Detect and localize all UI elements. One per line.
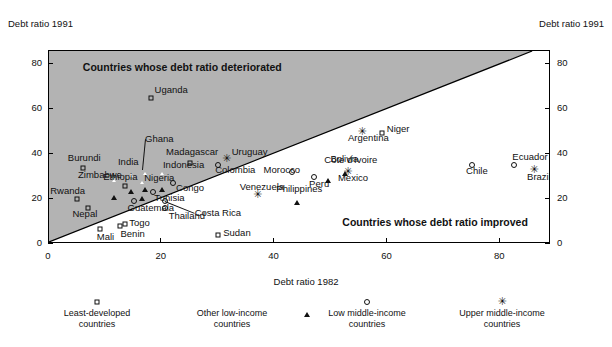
- x-tick-label-20: 20: [141, 250, 181, 261]
- y-tick-label-right-40: 40: [557, 147, 587, 158]
- point-label: Ethiopia: [103, 172, 137, 182]
- point-label: Bolivia: [330, 154, 358, 164]
- x-tickmark: [48, 238, 49, 243]
- x-tickmark: [273, 238, 274, 243]
- legend-item-star: ✳Upper middle-incomecountries: [427, 296, 577, 330]
- y-tickmark: [48, 243, 53, 244]
- marker-circle-icon: [364, 299, 370, 305]
- y-tickmark: [545, 108, 550, 109]
- legend-symbol: [22, 296, 172, 308]
- marker-square-icon: [123, 221, 128, 226]
- point-label: Colombia: [215, 165, 255, 175]
- shaded-region-above-diagonal: [49, 51, 549, 242]
- point-label: Uganda: [155, 85, 188, 95]
- point-label: Madagascar: [166, 147, 218, 157]
- y-tick-label-left-40: 40: [12, 147, 42, 158]
- legend-label-line2: countries: [292, 319, 442, 330]
- y-tick-label-right-60: 60: [557, 102, 587, 113]
- y-tickmark: [48, 108, 53, 109]
- legend-label-line2: countries: [22, 319, 172, 330]
- legend-label-line1: Upper middle-income: [427, 308, 577, 319]
- marker-square-icon: [123, 183, 128, 188]
- point-label: Rwanda: [50, 186, 85, 196]
- y-tick-label-left-0: 0: [12, 237, 42, 248]
- point-label: Brazil: [527, 172, 550, 182]
- marker-star-icon: ✳: [222, 156, 231, 162]
- marker-square-icon: [75, 197, 80, 202]
- marker-square-icon: [95, 300, 100, 305]
- point-label: Mexico: [338, 173, 368, 183]
- marker-circle-icon: [162, 205, 168, 211]
- chart-figure: Debt ratio 1991 Debt ratio 1991 Debt rat…: [0, 0, 612, 347]
- y-tick-label-left-60: 60: [12, 102, 42, 113]
- point-label: India: [118, 157, 139, 167]
- y-tick-label-left-20: 20: [12, 192, 42, 203]
- legend-label-line1: Other low-income: [157, 308, 307, 319]
- x-tick-label-40: 40: [254, 250, 294, 261]
- legend-symbol: ✳: [427, 296, 577, 308]
- marker-star-icon: ✳: [253, 192, 262, 198]
- point-label: Morocco: [264, 165, 300, 175]
- x-tick-label-60: 60: [366, 250, 406, 261]
- y-tickmark: [48, 198, 53, 199]
- marker-square-icon: [148, 96, 153, 101]
- point-label: Benin: [121, 229, 145, 239]
- point-label: Indonesia: [163, 160, 204, 170]
- y-tickmark: [48, 63, 53, 64]
- legend-symbol: [292, 296, 442, 308]
- point-label: Sudan: [223, 228, 250, 238]
- point-label: Nepal: [72, 209, 97, 219]
- marker-square-icon: [216, 233, 221, 238]
- x-tickmark: [160, 238, 161, 243]
- point-label: Uruguay: [232, 147, 268, 157]
- y-tick-label-left-80: 80: [12, 57, 42, 68]
- y-tickmark: [545, 153, 550, 154]
- y-tick-label-right-80: 80: [557, 57, 587, 68]
- marker-square-icon: [379, 130, 384, 135]
- point-label: Ghana: [145, 134, 174, 144]
- x-axis-title: Debt ratio 1982: [0, 276, 612, 287]
- point-label: Togo: [129, 218, 150, 228]
- x-tick-label-80: 80: [479, 250, 519, 261]
- plot-area: UgandaGhanaMadagascarIndonesia✳UruguayCo…: [48, 50, 550, 243]
- region-note-deteriorated: Countries whose debt ratio deteriorated: [83, 61, 282, 73]
- chart-legend: Least-developedcountriesOther low-income…: [0, 296, 612, 344]
- y-axis-title-left: Debt ratio 1991: [8, 18, 73, 29]
- point-label: Mali: [97, 232, 114, 242]
- point-label: Thailand: [169, 211, 205, 221]
- point-label: Niger: [387, 124, 410, 134]
- point-label: Burundi: [68, 153, 101, 163]
- legend-label-line2: countries: [427, 319, 577, 330]
- marker-circle-icon: [511, 162, 517, 168]
- legend-label-line2: countries: [157, 319, 307, 330]
- legend-item-circle: Low middle-incomecountries: [292, 296, 442, 330]
- y-tickmark: [545, 243, 550, 244]
- legend-symbol: [157, 296, 307, 308]
- y-tickmark: [545, 63, 550, 64]
- y-tickmark: [545, 198, 550, 199]
- point-label: Venezuela: [240, 182, 284, 192]
- region-note-improved: Countries whose debt ratio improved: [342, 216, 528, 228]
- legend-label-line1: Least-developed: [22, 308, 172, 319]
- y-tick-label-right-20: 20: [557, 192, 587, 203]
- point-label: Chile: [466, 166, 488, 176]
- point-label: Ecuador: [512, 152, 547, 162]
- y-tick-label-right-0: 0: [557, 237, 587, 248]
- legend-label-line1: Low middle-income: [292, 308, 442, 319]
- y-axis-title-right: Debt ratio 1991: [539, 18, 604, 29]
- x-tickmark: [499, 238, 500, 243]
- legend-item-square: Least-developedcountries: [22, 296, 172, 330]
- legend-item-triangle: Other low-incomecountries: [157, 296, 307, 330]
- marker-star-icon: ✳: [497, 299, 506, 305]
- x-tickmark: [386, 238, 387, 243]
- x-tick-label-0: 0: [28, 250, 68, 261]
- y-tickmark: [48, 153, 53, 154]
